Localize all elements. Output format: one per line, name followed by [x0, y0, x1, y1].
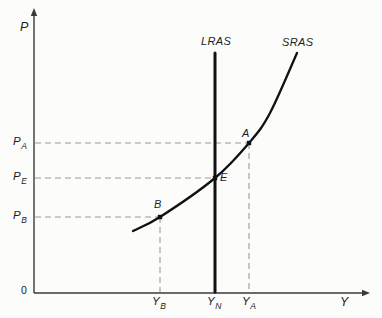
x-axis-arrowhead: [362, 290, 370, 296]
price-a-base: P: [13, 135, 21, 147]
price-a-sub: A: [21, 141, 27, 151]
p-axis-label: P: [20, 21, 28, 34]
output-a-label: YA: [242, 296, 255, 310]
y-axis-arrowhead: [31, 8, 37, 16]
output-b-label: YB: [152, 296, 165, 310]
output-a-base: Y: [242, 295, 250, 307]
price-b-label: PB: [13, 210, 26, 224]
output-b-sub: B: [160, 301, 166, 311]
aggregate-supply-diagram: P Y 0 LRAS SRAS PA PE PB YB YN YA A E B: [0, 0, 382, 318]
point-a-label: A: [242, 128, 249, 139]
point-b-label: B: [154, 199, 161, 210]
output-b-base: Y: [152, 295, 160, 307]
output-a-sub: A: [250, 301, 256, 311]
origin-label: 0: [21, 285, 27, 296]
y-axis-label: Y: [340, 296, 348, 309]
point-b-marker: [158, 215, 162, 219]
price-e-sub: E: [21, 176, 27, 186]
output-n-base: Y: [207, 295, 215, 307]
diagram-canvas: [0, 0, 382, 318]
point-e-marker: [213, 176, 217, 180]
lras-label: LRAS: [201, 36, 231, 47]
point-e-label: E: [220, 172, 227, 183]
price-e-base: P: [13, 170, 21, 182]
point-a-marker: [247, 141, 251, 145]
price-e-label: PE: [13, 171, 26, 185]
price-a-label: PA: [13, 136, 26, 150]
output-n-label: YN: [207, 296, 221, 310]
sras-label: SRAS: [282, 37, 314, 48]
price-b-sub: B: [21, 215, 27, 225]
price-b-base: P: [13, 209, 21, 221]
output-n-sub: N: [215, 301, 221, 311]
